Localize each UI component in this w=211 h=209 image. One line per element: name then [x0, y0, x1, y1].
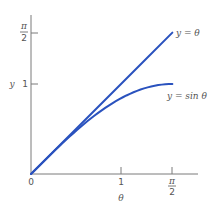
y-tick-label-2: 2	[21, 33, 27, 43]
chart: π 2 1 y 0 1 π 2 θ y = θ y = sin θ	[0, 0, 211, 209]
curve-y-equals-sin-theta	[31, 84, 172, 174]
y-tick-label-pi: π	[20, 21, 28, 31]
x-tick-label-2: 2	[169, 187, 175, 197]
line-label: y = θ	[175, 28, 200, 38]
x-axis-label: θ	[118, 193, 124, 203]
y-tick-label-1: 1	[22, 79, 28, 89]
x-tick-label-pi: π	[168, 176, 176, 186]
origin-label: 0	[28, 177, 34, 187]
sin-curve-label: y = sin θ	[166, 91, 208, 101]
x-tick-label-1: 1	[118, 177, 124, 187]
y-axis-label: y	[8, 79, 15, 89]
